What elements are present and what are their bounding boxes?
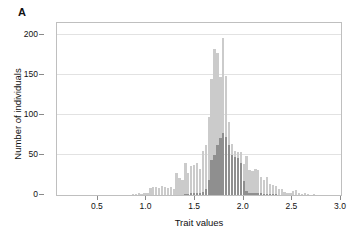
gridline-y-150 xyxy=(57,74,341,75)
histogram-bar xyxy=(307,194,309,195)
y-tick-label: 100 xyxy=(24,110,38,119)
x-tick-mark-2.0 xyxy=(243,196,244,200)
x-tick-label: 0.5 xyxy=(91,202,103,211)
plot-area xyxy=(56,22,342,196)
x-tick-mark-3.0 xyxy=(340,196,341,200)
gridline-y-100 xyxy=(57,114,341,115)
x-tick-label: 1.5 xyxy=(188,202,200,211)
gridline-y-50 xyxy=(57,154,341,155)
y-tick-mark-0 xyxy=(39,194,44,195)
y-tick-mark-150 xyxy=(39,74,44,75)
y-tick-mark-200 xyxy=(39,34,44,35)
y-tick-mark-100 xyxy=(39,114,44,115)
y-tick-label: 50 xyxy=(29,150,38,159)
y-tick-mark-50 xyxy=(39,154,44,155)
x-tick-mark-1.0 xyxy=(145,196,146,200)
x-tick-label: 3.0 xyxy=(334,202,346,211)
x-axis-title: Trait values xyxy=(56,217,342,228)
histogram-bar xyxy=(313,194,315,195)
histogram-bar xyxy=(275,194,277,195)
y-tick-label: 150 xyxy=(24,70,38,79)
x-tick-mark-0.5 xyxy=(97,196,98,200)
x-tick-label: 2.5 xyxy=(285,202,297,211)
gridline-y-200 xyxy=(57,34,341,35)
x-axis: Trait values 0.51.01.52.02.53.0 xyxy=(0,196,360,239)
x-tick-mark-1.5 xyxy=(194,196,195,200)
x-tick-label: 2.0 xyxy=(237,202,249,211)
y-tick-label: 200 xyxy=(24,30,38,39)
y-axis-title: Number of individuals xyxy=(13,34,23,194)
figure-panel-a: A Number of individuals 050100150200 Tra… xyxy=(0,0,360,239)
x-tick-label: 1.0 xyxy=(140,202,152,211)
x-tick-mark-2.5 xyxy=(291,196,292,200)
